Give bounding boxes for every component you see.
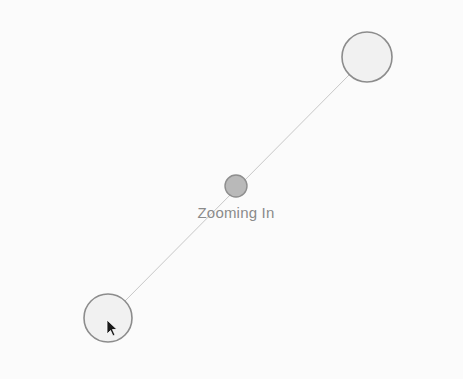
touch-point-top-right[interactable] [342,32,392,82]
touch-point-bottom-left[interactable] [84,294,132,342]
zoom-center-point [225,175,247,197]
gesture-canvas [0,0,463,379]
gesture-label: Zooming In [197,204,274,221]
